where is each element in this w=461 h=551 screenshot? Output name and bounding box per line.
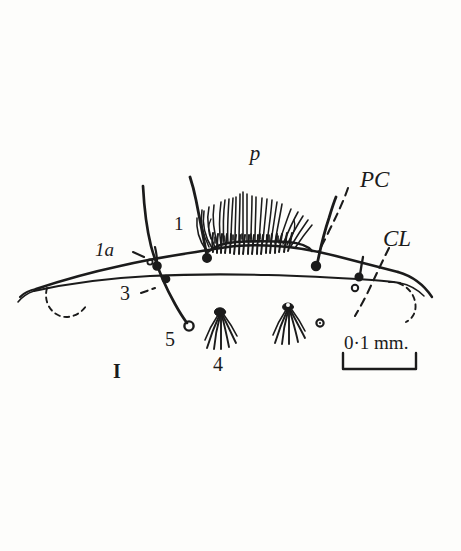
plate-number: I	[113, 360, 121, 382]
canvas-background	[0, 0, 461, 551]
label-pecten: p	[248, 141, 261, 165]
label-cl: CL	[383, 226, 411, 251]
illustration-canvas: p PC CL 1 1a 3 4 5 0·1 mm. I	[0, 0, 461, 551]
label-seta-1: 1	[174, 213, 184, 234]
seta-1-socket	[203, 254, 211, 262]
label-seta-5: 5	[165, 328, 175, 350]
label-seta-1a: 1a	[95, 239, 114, 260]
seta-socket-icon	[316, 319, 323, 326]
label-pc: PC	[359, 167, 390, 192]
label-seta-4: 4	[213, 353, 223, 375]
figure-plate: p PC CL 1 1a 3 4 5 0·1 mm. I	[0, 0, 461, 551]
label-seta-3: 3	[120, 282, 130, 304]
scale-bar-label: 0·1 mm.	[344, 332, 408, 353]
